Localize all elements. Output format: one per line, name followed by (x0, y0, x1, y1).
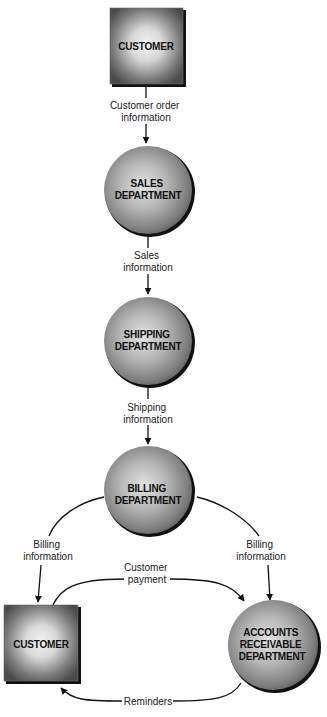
node-shipping-department: SHIPPING DEPARTMENT (104, 297, 195, 388)
node-customer-bottom: CUSTOMER (4, 605, 81, 684)
flow-reminders: Reminders (61, 683, 241, 707)
flow-label-billing-information-left: Billing information (23, 539, 72, 562)
node-label-shipping: SHIPPING DEPARTMENT (115, 329, 182, 352)
node-label-customer-bottom: CUSTOMER (13, 639, 69, 650)
node-billing-department: BILLING DEPARTMENT (104, 446, 195, 537)
flow-customer-payment: Customer payment (53, 562, 244, 605)
node-label-customer-top: CUSTOMER (118, 41, 174, 52)
flow-billing-to-accounts: Billing information (197, 497, 286, 600)
flow-customer-to-sales: Customer order information (110, 87, 182, 143)
node-accounts-receivable-department: ACCOUNTS RECEIVABLE DEPARTMENT (228, 600, 321, 693)
flow-label-shipping-information: Shipping information (123, 402, 172, 425)
flow-sales-to-shipping: Sales information (123, 236, 172, 294)
flow-label-sales-information: Sales information (123, 250, 172, 273)
flow-label-reminders: Reminders (124, 696, 172, 707)
node-sales-department: SALES DEPARTMENT (104, 146, 195, 237)
data-flow-diagram: Customer order information Sales informa… (0, 0, 327, 717)
flow-billing-to-customer: Billing information (23, 497, 104, 602)
flow-label-billing-information-right: Billing information (236, 539, 285, 562)
node-label-accounts-receivable: ACCOUNTS RECEIVABLE DEPARTMENT (239, 627, 306, 662)
flow-label-customer-payment: Customer payment (124, 562, 170, 585)
flow-label-customer-order: Customer order information (110, 100, 182, 123)
flow-shipping-to-billing: Shipping information (123, 387, 172, 444)
node-customer-top: CUSTOMER (110, 8, 186, 87)
